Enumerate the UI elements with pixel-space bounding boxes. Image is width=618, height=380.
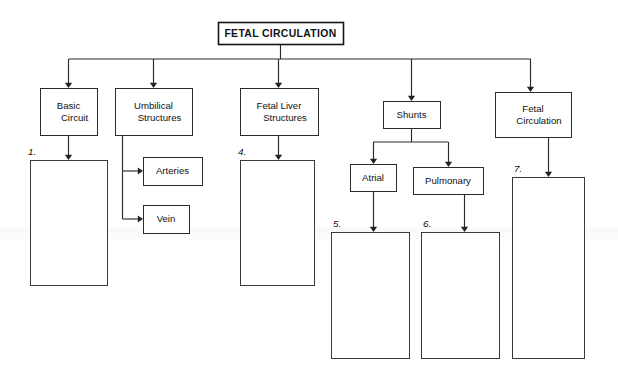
answer-5-number: 5.: [333, 218, 341, 229]
answer-4-field[interactable]: [241, 161, 315, 286]
answer-4-number: 4.: [238, 146, 246, 157]
arrowhead-drop-umbilical: [150, 83, 157, 88]
answer-6-number: 6.: [423, 218, 431, 229]
arrowhead-branch-vein: [138, 215, 143, 222]
node-atrial: Atrial: [351, 165, 397, 192]
page-title: FETAL CIRCULATION: [224, 28, 336, 39]
title-box-group: FETAL CIRCULATION: [219, 23, 344, 45]
title-layer: FETAL CIRCULATION: [219, 23, 344, 45]
worksheet-canvas: 1.4.5.6.7. BasicCircuitUmbilicalStructur…: [0, 0, 618, 380]
node-arteries-label-line-1: Arteries: [156, 165, 189, 176]
arrowhead-drop-basic-circuit: [65, 83, 72, 88]
node-basic-circuit-label-line-2: Circuit: [61, 112, 89, 123]
arrowhead-arrow-to-answer-6: [461, 227, 468, 232]
answer-6-field[interactable]: [422, 233, 500, 359]
node-umbilical-structures-label-line-2: Structures: [138, 112, 182, 123]
node-fetal-circulation-branch-label-line-1: Fetal: [522, 103, 543, 114]
answer-7-group: 7.: [513, 163, 585, 359]
answer-7-field[interactable]: [513, 178, 585, 359]
node-fetal-circulation-branch: FetalCirculation: [496, 93, 572, 138]
arrowhead-drop-pulmonary: [445, 162, 452, 167]
answer-6-group: 6.: [422, 218, 500, 359]
node-fetal-liver-structures-label-line-1: Fetal Liver: [257, 100, 303, 111]
node-vein-label-line-1: Vein: [157, 213, 176, 224]
answer-7-number: 7.: [514, 163, 522, 174]
answer-5-group: 5.: [332, 218, 410, 359]
node-basic-circuit-label-line-1: Basic: [57, 100, 81, 111]
node-shunts-label-line-1: Shunts: [397, 109, 427, 120]
answer-1-group: 1.: [28, 146, 108, 286]
node-fetal-liver-structures: Fetal LiverStructures: [241, 89, 319, 136]
answer-5-field[interactable]: [332, 233, 410, 359]
arrowhead-arrow-to-answer-7: [545, 172, 552, 177]
node-fetal-circulation-branch-label-line-2: Circulation: [516, 115, 561, 126]
fetal-circulation-concept-map: 1.4.5.6.7. BasicCircuitUmbilicalStructur…: [0, 0, 618, 380]
answer-1-number: 1.: [28, 146, 36, 157]
answer-4-group: 4.: [238, 146, 315, 286]
node-shunts: Shunts: [384, 102, 441, 129]
arrowhead-drop-shunts: [408, 96, 415, 101]
arrowhead-branch-arteries: [138, 167, 143, 174]
arrowhead-drop-fetal-circulation: [527, 87, 534, 92]
node-pulmonary: Pulmonary: [414, 168, 484, 195]
arrowhead-arrow-to-answer-5: [370, 227, 377, 232]
arrowhead-drop-fetal-liver: [275, 83, 282, 88]
arrowhead-arrow-to-answer-4: [275, 155, 282, 160]
answer-1-field[interactable]: [31, 161, 108, 286]
node-atrial-label-line-1: Atrial: [362, 172, 384, 183]
node-arteries: Arteries: [144, 158, 203, 186]
answer-box-layer: 1.4.5.6.7.: [28, 146, 585, 359]
node-umbilical-structures: UmbilicalStructures: [116, 89, 193, 136]
node-basic-circuit: BasicCircuit: [41, 89, 98, 136]
node-pulmonary-label-line-1: Pulmonary: [425, 175, 471, 186]
node-umbilical-structures-label-line-1: Umbilical: [134, 100, 173, 111]
node-fetal-liver-structures-label-line-2: Structures: [263, 112, 307, 123]
arrowhead-arrow-to-answer-1: [65, 155, 72, 160]
node-vein: Vein: [144, 206, 190, 234]
arrowhead-drop-atrial: [370, 159, 377, 164]
